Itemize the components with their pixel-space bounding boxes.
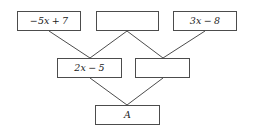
connector-t2-to-m1	[90, 31, 127, 58]
node-label-top-right: 3x − 8	[190, 16, 220, 26]
node-label-middle-left: 2x − 5	[74, 63, 104, 73]
connector-m1-to-b1	[90, 78, 127, 105]
connector-t3-to-m2	[163, 31, 205, 58]
node-box-middle-right[interactable]	[135, 58, 190, 78]
node-box-bottom[interactable]: A	[95, 105, 160, 125]
node-label-bottom: A	[124, 110, 131, 120]
connector-t2-to-m2	[127, 31, 163, 58]
expression-pyramid-diagram: −5x + 7 3x − 8 2x − 5 A	[0, 0, 253, 135]
node-box-top-left[interactable]: −5x + 7	[17, 11, 81, 31]
node-box-top-middle[interactable]	[96, 11, 159, 31]
connector-m2-to-b1	[127, 78, 163, 105]
node-label-top-left: −5x + 7	[30, 16, 69, 26]
node-box-top-right[interactable]: 3x − 8	[173, 11, 237, 31]
connector-t1-to-m1	[49, 31, 90, 58]
node-box-middle-left[interactable]: 2x − 5	[57, 58, 122, 78]
